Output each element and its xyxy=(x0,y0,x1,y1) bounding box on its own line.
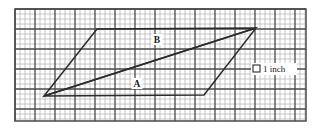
legend-group: 1 inch xyxy=(251,63,297,75)
label-b-group: B xyxy=(152,34,163,45)
region-label-a: A xyxy=(134,79,141,89)
label-a-group: A xyxy=(132,78,143,89)
region-label-b: B xyxy=(154,35,161,45)
geometry-figure: A B 1 inch xyxy=(0,0,321,131)
legend-label: 1 inch xyxy=(263,64,286,74)
figure-canvas: A B 1 inch xyxy=(0,0,321,131)
one-inch-square-swatch xyxy=(253,65,260,72)
